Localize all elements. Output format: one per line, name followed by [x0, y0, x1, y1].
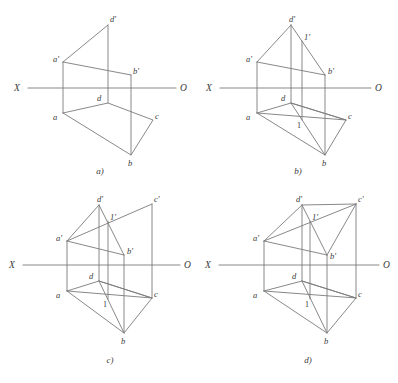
label-c: c: [154, 289, 158, 299]
label-d: d: [97, 93, 102, 103]
label-a: a: [246, 112, 250, 122]
label-axis-x: X: [205, 83, 213, 93]
label-c: c: [155, 111, 159, 121]
label-b: b: [322, 158, 326, 168]
label-d-prime: d': [289, 14, 295, 24]
label-d: d: [281, 93, 286, 103]
panel-c: a' d' b' c' 1' a d b c 1 X O: [0, 191, 199, 361]
label-axis-x: X: [8, 260, 16, 270]
label-axis-x: X: [204, 260, 212, 270]
label-a-prime: a': [246, 54, 252, 64]
edges-horizontal-adcb: [257, 103, 346, 155]
label-axis-x: X: [13, 83, 21, 93]
label-a-prime: a': [56, 233, 62, 243]
label-one: 1: [297, 121, 301, 130]
edge-a-c: [67, 291, 152, 298]
label-c: c: [358, 289, 362, 299]
label-b-prime: b': [330, 251, 336, 261]
caption-panel-d: d): [288, 355, 328, 365]
label-a: a: [56, 290, 60, 300]
label-d: d: [89, 271, 94, 281]
label-a-prime: a': [253, 233, 259, 243]
label-one-prime: 1': [312, 212, 318, 222]
label-b: b: [121, 336, 125, 346]
label-b-prime: b': [127, 246, 133, 256]
label-axis-o: O: [180, 83, 187, 93]
label-a: a: [253, 290, 257, 300]
label-one-prime: 1': [304, 32, 310, 42]
figure-sheet: a' d' b' a d b c X O a) a' d' b' 1' a d …: [0, 0, 398, 383]
label-d-prime: d': [296, 194, 302, 204]
panel-d: a' d' b' c' 1' a d b c 1 X O: [199, 191, 398, 361]
edge-ap-dp: [264, 205, 302, 241]
label-c-prime: c': [358, 194, 364, 204]
label-a: a: [53, 112, 57, 122]
edges-horizontal-adcb: [67, 281, 152, 333]
label-axis-o: O: [383, 260, 390, 270]
label-axis-o: O: [184, 260, 191, 270]
label-one-prime: 1': [110, 212, 116, 222]
label-axis-o: O: [375, 83, 382, 93]
edge-ap-bp: [63, 62, 131, 75]
caption-panel-c: c): [90, 355, 130, 365]
label-b: b: [128, 158, 132, 168]
edge-ap-dp: [63, 25, 108, 62]
label-c-prime: c': [154, 194, 160, 204]
label-d-prime: d': [97, 194, 103, 204]
edge-cp-bp: [327, 204, 356, 255]
panel-b: a' d' b' 1' a d b c 1 X O: [199, 0, 398, 170]
edge-ap-bp: [264, 241, 327, 255]
caption-panel-b: b): [278, 166, 318, 176]
edges-horizontal-adcb: [63, 103, 153, 155]
label-a-prime: a': [53, 54, 59, 64]
label-d: d: [292, 271, 297, 281]
edge-ap-dp: [67, 205, 99, 241]
edge-ap-cp: [67, 204, 152, 241]
label-b-prime: b': [133, 66, 139, 76]
panel-a: a' d' b' a d b c X O: [0, 0, 199, 170]
label-b: b: [324, 336, 328, 346]
edge-ap-bp: [67, 241, 124, 255]
label-c: c: [348, 111, 352, 121]
edge-ap-dp: [257, 25, 291, 62]
label-b-prime: b': [328, 66, 334, 76]
label-one: 1: [305, 300, 309, 309]
caption-panel-a: a): [80, 166, 120, 176]
edge-dp-cp: [302, 204, 356, 205]
label-one: 1: [103, 300, 107, 309]
label-d-prime: d': [110, 14, 116, 24]
